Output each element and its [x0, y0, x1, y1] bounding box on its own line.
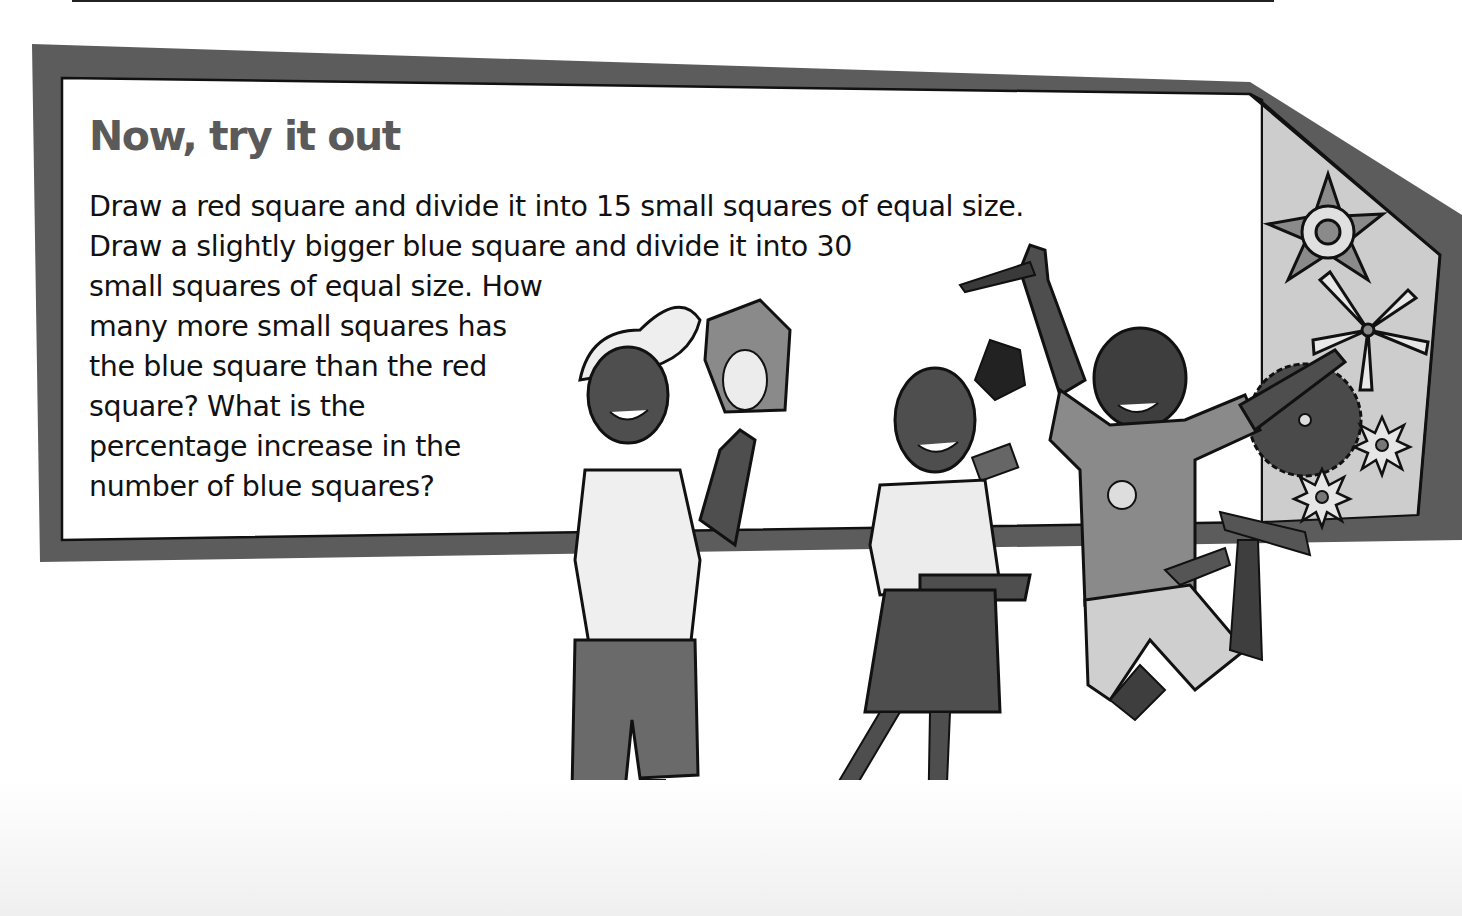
activity-title: Now, try it out	[89, 112, 400, 160]
gear-icon	[1294, 469, 1350, 527]
activity-instructions: Draw a red square and divide it into 15 …	[89, 187, 1024, 507]
floor-shading	[0, 780, 1462, 916]
instruction-line: square? What is the	[89, 387, 1024, 427]
instruction-line: small squares of equal size. How	[89, 267, 1024, 307]
instruction-line: Draw a red square and divide it into 15 …	[89, 187, 1024, 227]
gear-icon	[1354, 417, 1410, 475]
instruction-line: many more small squares has	[89, 307, 1024, 347]
instruction-line: Draw a slightly bigger blue square and d…	[89, 227, 1024, 267]
instruction-line: the blue square than the red	[89, 347, 1024, 387]
instruction-line: number of blue squares?	[89, 467, 1024, 507]
instruction-line: percentage increase in the	[89, 427, 1024, 467]
